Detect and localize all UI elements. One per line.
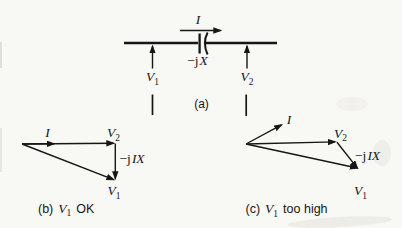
scan-smudge-mid [336,97,368,111]
b-v1-label: V1 [108,183,121,201]
phasor-diagram-c: I V2 −jIX V1 (c)V1too high [246,112,381,219]
c-current-phasor [246,125,281,144]
reactance-label: −jX [187,53,208,68]
c-v2-phasor [246,142,335,144]
phasor-diagram-b: I V2 −jIX V1 (b)V1OK [22,125,145,219]
caption-c: (c)V1too high [246,201,328,219]
series-capacitor-phasor-figure: I −jX V1 V2 (a) I V2 −jIX V1 (b)V1OK [0,0,402,228]
b-v1-phasor [22,144,114,180]
c-current-label: I [286,112,293,127]
c-v2-label: V2 [334,126,347,144]
caption-a: (a) [194,97,209,111]
c-drop-label: −jIX [355,148,381,163]
b-current-label: I [44,125,51,140]
v2-label: V2 [241,69,254,87]
c-v1-phasor [246,144,357,168]
c-v1-label: V1 [354,183,367,201]
scan-smudge-bottom [288,214,392,228]
b-drop-label: −jIX [120,151,146,166]
scanned-figure-page: I −jX V1 V2 (a) I V2 −jIX V1 (b)V1OK [0,0,402,228]
caption-b: (b)V1OK [38,201,95,219]
v1-label: V1 [146,69,159,87]
b-v2-label: V2 [107,125,120,143]
current-label: I [195,12,202,27]
circuit-a: I −jX V1 V2 (a) [124,12,277,116]
